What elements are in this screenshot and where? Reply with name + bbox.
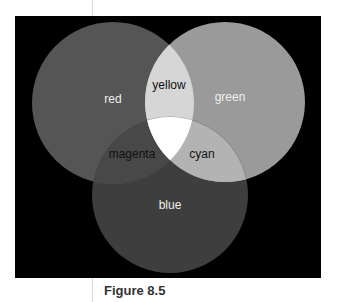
figure-caption: Figure 8.5 [104, 283, 165, 298]
label-yellow: yellow [152, 78, 186, 92]
label-green: green [215, 90, 246, 104]
label-magenta: magenta [109, 147, 156, 161]
label-red: red [104, 92, 121, 106]
venn-diagram: red green blue yellow magenta cyan [0, 0, 338, 302]
label-blue: blue [159, 198, 182, 212]
label-cyan: cyan [189, 147, 214, 161]
margin-rule-bottom [92, 278, 93, 302]
